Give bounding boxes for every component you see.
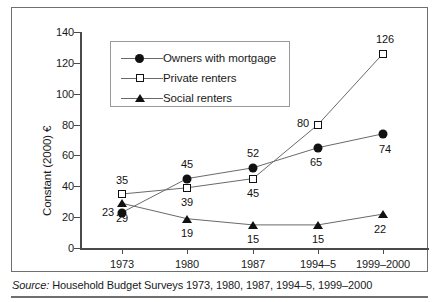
data-point-social-1994-5 — [313, 221, 323, 229]
x-tick-mark-1999-2000 — [383, 249, 384, 254]
y-tick-label-60: 60 — [36, 150, 74, 161]
legend-label-social-renters: Social renters — [163, 92, 232, 105]
legend-item-private-renters: Private renters — [111, 68, 289, 88]
data-point-social-1987 — [248, 221, 258, 229]
filled-circle-marker — [183, 174, 192, 183]
open-square-marker — [183, 184, 191, 192]
data-point-private-1994-5 — [314, 121, 322, 129]
filled-circle-marker — [379, 129, 388, 138]
source-note: Source: Household Budget Surveys 1973, 1… — [12, 279, 372, 292]
x-tick-mark-1980 — [187, 249, 188, 254]
y-tick-label-120: 120 — [36, 58, 74, 69]
y-tick-label-20: 20 — [36, 212, 74, 223]
open-square-marker — [118, 190, 126, 198]
data-label-social-1980: 19 — [181, 228, 193, 239]
y-tick-label-40: 40 — [36, 181, 74, 192]
legend-label-owners-with-mortgage: Owners with mortgage — [163, 52, 276, 65]
data-label-owners-1987: 52 — [247, 148, 259, 159]
data-label-social-1994-5: 15 — [312, 234, 324, 245]
data-label-private-1980: 39 — [181, 197, 193, 208]
legend-item-social-renters: Social renters — [111, 88, 289, 108]
filled-triangle-marker — [182, 215, 192, 223]
data-label-owners-1999-2000: 74 — [379, 144, 391, 155]
source-prefix: Source: — [12, 279, 49, 291]
open-square-marker — [314, 121, 322, 129]
data-point-owners-1994-5 — [314, 143, 323, 152]
legend-symbol-filled-circle — [121, 51, 163, 65]
data-point-private-1973 — [118, 190, 126, 198]
legend-symbol-open-square — [121, 71, 163, 85]
x-tick-label-1973: 1973 — [110, 258, 134, 270]
filled-triangle-marker — [117, 199, 127, 207]
x-tick-label-1987: 1987 — [241, 258, 265, 270]
data-label-private-1987: 45 — [247, 188, 259, 199]
data-point-social-1980 — [182, 215, 192, 223]
x-tick-label-1999-2000: 1999–2000 — [356, 258, 410, 270]
y-tick-label-100: 100 — [36, 89, 74, 100]
y-tick-label-140: 140 — [36, 27, 74, 38]
x-tick-mark-1987 — [253, 249, 254, 254]
data-point-owners-1999-2000 — [379, 129, 388, 138]
data-point-social-1999-2000 — [378, 210, 388, 218]
x-tick-mark-1994-5 — [318, 249, 319, 254]
filled-triangle-marker — [378, 210, 388, 218]
y-axis-title: Constant (2000) € — [41, 126, 53, 216]
x-tick-label-1980: 1980 — [175, 258, 199, 270]
legend-item-owners-with-mortgage: Owners with mortgage — [111, 48, 289, 68]
data-label-private-1973: 35 — [116, 175, 128, 186]
data-label-owners-1980: 45 — [181, 159, 193, 170]
bottom-rule — [11, 296, 428, 298]
data-label-social-1973: 29 — [116, 213, 128, 224]
filled-circle-marker — [314, 143, 323, 152]
open-square-marker — [249, 175, 257, 183]
x-tick-label-1994-5: 1994–5 — [300, 258, 336, 270]
x-axis-line — [80, 248, 429, 250]
chart-legend: Owners with mortgage Private renters Soc… — [110, 41, 290, 107]
data-point-private-1987 — [249, 175, 257, 183]
data-point-social-1973 — [117, 199, 127, 207]
data-label-owners-1994-5: 65 — [310, 157, 322, 168]
data-point-owners-1987 — [249, 163, 258, 172]
filled-circle-marker — [249, 163, 258, 172]
filled-triangle-marker — [313, 221, 323, 229]
legend-symbol-filled-triangle — [121, 91, 163, 105]
y-tick-label-0: 0 — [36, 243, 74, 254]
figure-container: Constant (2000) € 140 120 100 80 60 40 2… — [0, 0, 441, 302]
data-point-owners-1980 — [183, 174, 192, 183]
data-label-private-1999-2000: 126 — [376, 34, 394, 45]
source-text: Household Budget Surveys 1973, 1980, 198… — [52, 279, 372, 291]
data-point-private-1999-2000 — [379, 50, 387, 58]
legend-label-private-renters: Private renters — [163, 72, 236, 85]
data-label-private-1994-5: 80 — [297, 118, 309, 129]
data-label-social-1999-2000: 22 — [374, 224, 386, 235]
x-tick-mark-1973 — [122, 249, 123, 254]
filled-triangle-marker — [248, 221, 258, 229]
open-square-marker — [379, 50, 387, 58]
data-label-social-1987: 15 — [247, 234, 259, 245]
y-tick-mark-0 — [74, 248, 80, 249]
data-label-owners-1973: 23 — [102, 207, 114, 218]
chart-frame: Constant (2000) € 140 120 100 80 60 40 2… — [11, 7, 428, 272]
data-point-private-1980 — [183, 184, 191, 192]
y-tick-label-80: 80 — [36, 120, 74, 131]
